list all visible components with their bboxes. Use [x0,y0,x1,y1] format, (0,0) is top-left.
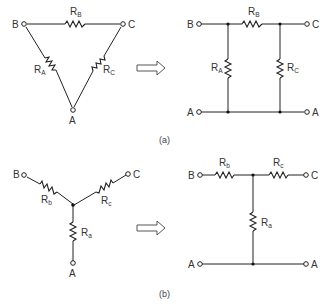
resistor-label-ra: RA [211,62,223,74]
terminal-b [22,173,27,178]
delta-network: B C A RB RA RC [12,6,135,126]
resistor-label-ra: Ra [81,227,92,239]
resistor-rc-pi [277,59,283,78]
resistor-rc-wye [96,180,113,193]
junction-dot [278,22,281,25]
resistor-ra-t [250,212,256,231]
resistor-label-rb: Rb [219,157,230,169]
node-label-b: B [13,169,20,180]
terminal-b [22,22,27,27]
terminal-a-right [305,110,310,115]
resistor-label-ra: RA [34,64,46,76]
resistor-label-rb: Rb [41,194,52,206]
resistor-rb-wye [40,181,57,194]
caption-b: (b) [159,289,170,299]
resistor-ra-pi [225,59,231,78]
resistor-label-rb: RB [248,6,260,18]
resistor-ra-wye [70,222,76,241]
caption-a: (a) [159,135,170,145]
junction-dot [278,110,281,113]
terminal-a-left [198,262,203,267]
terminal-label-a-right: A [311,259,318,270]
terminal-label-c: C [311,170,318,181]
resistor-rc-t [269,172,288,178]
resistor-rb-delta [65,21,85,27]
terminal-b [198,173,203,178]
resistor-ra-delta [45,57,56,70]
resistor-rb-t [215,172,234,178]
delta-wye-equivalence-figure: B C A RB RA RC B C A A [0,0,329,304]
terminal-label-c: C [312,19,319,30]
junction-dot [251,262,254,265]
pi-network: B C A A RB RA RC [187,6,319,118]
junction-dot [251,173,254,176]
terminal-b [197,22,202,27]
resistor-label-rc: Rc [273,157,284,169]
junction-dot [226,22,229,25]
transform-arrow-b-icon [137,221,165,235]
resistor-label-rc: RC [287,62,299,74]
resistor-label-ra: Ra [261,217,272,229]
transform-arrow-a-icon [137,61,165,75]
resistor-label-rb: RB [70,6,82,18]
terminal-a [71,261,76,266]
resistor-label-rc: RC [103,64,115,76]
terminal-label-b: B [187,19,194,30]
terminal-c [304,173,309,178]
t-network: B C A A Rb Rc Ra [188,157,318,270]
node-label-b: B [12,19,19,30]
terminal-c [126,172,131,177]
node-label-c: C [128,19,135,30]
resistor-rb-pi [242,21,262,27]
terminal-label-b: B [188,170,195,181]
terminal-label-a-right: A [312,107,319,118]
node-label-a: A [69,268,76,279]
node-label-c: C [133,169,140,180]
junction-dot [226,110,229,113]
resistor-label-rc: Rc [101,195,112,207]
terminal-c [121,22,126,27]
terminal-a [71,108,76,113]
terminal-a-left [197,110,202,115]
terminal-label-a-left: A [187,107,194,118]
node-label-a: A [69,115,76,126]
terminal-label-a-left: A [188,259,195,270]
terminal-c [305,22,310,27]
terminal-a-right [304,262,309,267]
wye-network: B C A Rb Rc Ra [13,169,140,279]
center-node [71,203,75,207]
